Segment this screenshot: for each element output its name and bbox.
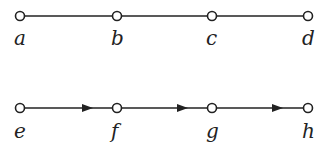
node-c (208, 12, 217, 21)
label-g: g (206, 119, 219, 143)
label-f: f (109, 119, 122, 143)
node-g (208, 104, 217, 113)
arrow-f-g-icon (177, 104, 188, 112)
arrow-e-f-icon (82, 104, 93, 112)
label-d: d (302, 26, 315, 50)
arrow-g-h-icon (272, 104, 283, 112)
directed-path: e f g h (14, 104, 315, 144)
node-f (113, 104, 122, 113)
node-b (113, 12, 122, 21)
label-e: e (14, 119, 26, 143)
node-e (16, 104, 25, 113)
label-h: h (302, 119, 315, 143)
node-h (304, 104, 313, 113)
undirected-path: a b c d (14, 12, 315, 51)
node-a (16, 12, 25, 21)
label-b: b (111, 26, 124, 50)
label-c: c (206, 26, 217, 50)
node-d (304, 12, 313, 21)
label-a: a (14, 26, 26, 50)
graph-diagram: a b c d e f g h (0, 0, 329, 148)
